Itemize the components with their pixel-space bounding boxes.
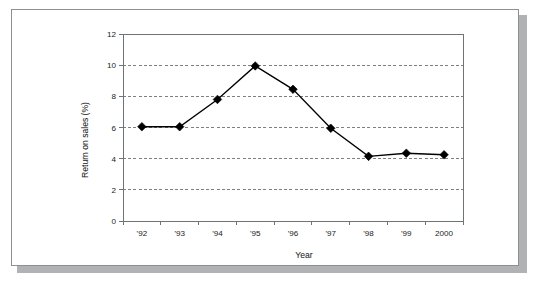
- x-tick-marks-group: [123, 221, 463, 225]
- y-axis-title: Return on sales (%): [80, 102, 90, 178]
- series-markers-group: [138, 62, 449, 161]
- gridlines-group: [123, 65, 463, 190]
- x-tick-label: '96: [288, 229, 299, 238]
- y-tick-label: 2: [111, 186, 116, 195]
- figure-root: 024681012 '92'93'94'95'96'97'98'992000 Y…: [0, 0, 540, 286]
- y-tick-label: 10: [107, 61, 117, 70]
- line-chart: 024681012 '92'93'94'95'96'97'98'992000 Y…: [12, 10, 518, 265]
- x-tick-label: '93: [174, 229, 185, 238]
- data-point-marker: [138, 122, 147, 131]
- series-line-return-on-sales: [142, 66, 444, 156]
- x-tick-label: 2000: [435, 229, 454, 238]
- y-tick-label: 4: [111, 155, 116, 164]
- figure-frame: 024681012 '92'93'94'95'96'97'98'992000 Y…: [11, 9, 519, 266]
- x-tick-label: '94: [212, 229, 223, 238]
- x-tick-label: '97: [325, 229, 336, 238]
- x-axis-title: Year: [295, 250, 313, 260]
- x-tick-label: '92: [137, 229, 148, 238]
- chart-plot-container: 024681012 '92'93'94'95'96'97'98'992000 Y…: [12, 10, 518, 265]
- x-tick-labels-group: '92'93'94'95'96'97'98'992000: [137, 229, 454, 238]
- x-tick-label: '95: [250, 229, 261, 238]
- data-point-marker: [402, 149, 411, 158]
- y-tick-label: 12: [107, 30, 117, 39]
- y-tick-label: 8: [111, 92, 116, 101]
- x-tick-label: '98: [363, 229, 374, 238]
- y-tick-label: 6: [111, 124, 116, 133]
- data-point-marker: [175, 122, 184, 131]
- y-tick-marks-group: [119, 34, 123, 221]
- x-tick-label: '99: [401, 229, 412, 238]
- data-point-marker: [440, 150, 449, 159]
- y-tick-label: 0: [111, 217, 116, 226]
- y-tick-labels-group: 024681012: [107, 30, 117, 226]
